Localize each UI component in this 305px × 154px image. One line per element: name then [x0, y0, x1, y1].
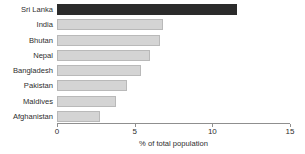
category-label-pakistan: Pakistan	[0, 80, 53, 91]
bar-nepal	[57, 50, 150, 61]
x-tick-label: 15	[286, 127, 295, 136]
bar-row	[57, 50, 290, 61]
x-axis-line	[57, 123, 290, 124]
bar-india	[57, 19, 163, 30]
category-label-bangladesh: Bangladesh	[0, 65, 53, 76]
bar-row	[57, 96, 290, 107]
plot-area	[57, 4, 290, 122]
x-axis-title: % of total population	[57, 139, 290, 148]
bar-row	[57, 4, 290, 15]
category-label-bhutan: Bhutan	[0, 35, 53, 46]
x-tick-label: 5	[132, 127, 136, 136]
bar-maldives	[57, 96, 116, 107]
category-axis-labels: Sri Lanka India Bhutan Nepal Bangladesh …	[0, 4, 53, 122]
category-label-nepal: Nepal	[0, 50, 53, 61]
category-label-sri-lanka: Sri Lanka	[0, 4, 53, 15]
bar-row	[57, 35, 290, 46]
category-label-india: India	[0, 19, 53, 30]
bar-afghanistan	[57, 111, 100, 122]
category-label-afghanistan: Afghanistan	[0, 111, 53, 122]
bar-chart: Sri Lanka India Bhutan Nepal Bangladesh …	[0, 0, 305, 154]
x-tick-label: 10	[208, 127, 217, 136]
bar-sri-lanka	[57, 4, 237, 15]
x-tick-label: 0	[55, 127, 59, 136]
category-label-maldives: Maldives	[0, 96, 53, 107]
bar-bangladesh	[57, 65, 141, 76]
bar-row	[57, 80, 290, 91]
bar-series	[57, 4, 290, 122]
bar-row	[57, 65, 290, 76]
bar-bhutan	[57, 35, 160, 46]
bar-row	[57, 111, 290, 122]
bar-row	[57, 19, 290, 30]
bar-pakistan	[57, 80, 127, 91]
